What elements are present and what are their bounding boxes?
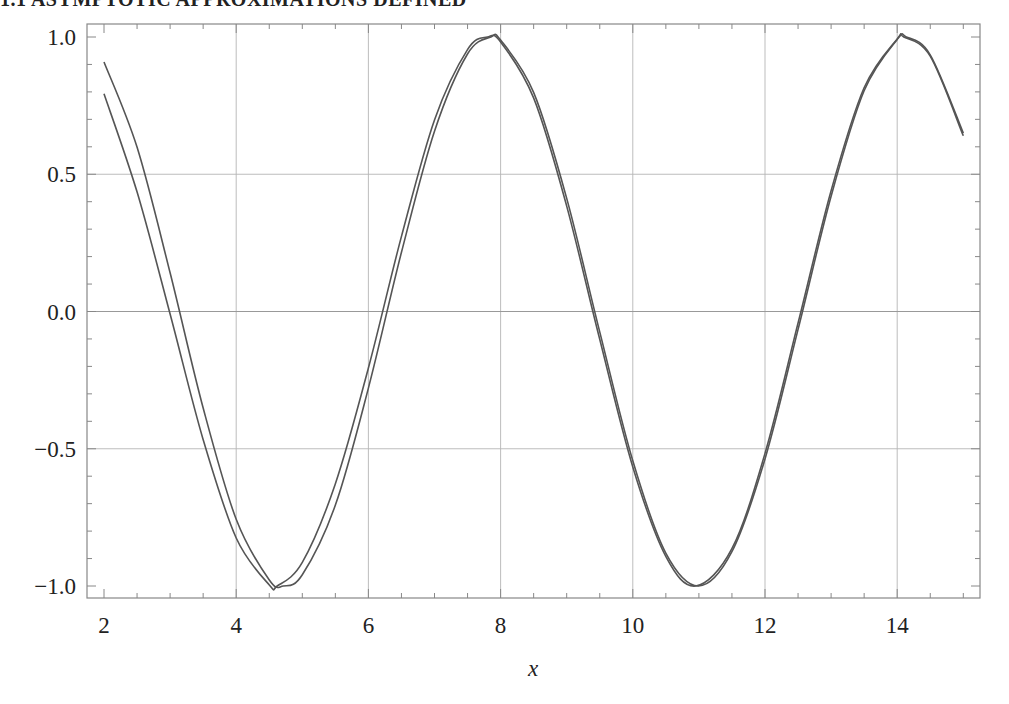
series-line-curve-upper-start	[104, 34, 963, 588]
x-tick-label: 8	[495, 613, 507, 638]
x-tick-label: 2	[98, 613, 110, 638]
x-tick-labels: 2468101214	[98, 613, 909, 638]
x-axis-label: x	[527, 656, 539, 681]
x-tick-label: 4	[230, 613, 242, 638]
y-tick-label: 0.0	[47, 300, 76, 325]
x-tick-label: 14	[886, 613, 910, 638]
y-tick-label: −0.5	[34, 437, 76, 462]
y-tick-label: −1.0	[34, 574, 76, 599]
y-tick-label: 1.0	[47, 25, 76, 50]
line-chart: 2468101214 1.00.50.0−0.5−1.0 x	[0, 0, 1009, 704]
x-tick-label: 12	[754, 613, 777, 638]
y-tick-labels: 1.00.50.0−0.5−1.0	[34, 25, 76, 599]
gridlines	[87, 24, 980, 598]
x-tick-label: 10	[621, 613, 644, 638]
y-tick-label: 0.5	[47, 162, 76, 187]
x-tick-label: 6	[363, 613, 375, 638]
